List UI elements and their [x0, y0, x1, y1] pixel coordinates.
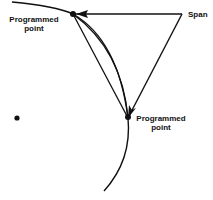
label-line-2: point [133, 123, 189, 132]
programmed-point-top-marker [70, 11, 76, 17]
label-line-2: point [6, 24, 62, 33]
programmed-point-bottom-label: Programmed point [133, 114, 189, 132]
chord-line [73, 14, 128, 118]
span-text: Span [188, 10, 208, 19]
center-dot [14, 115, 19, 120]
programmed-point-top-label: Programmed point [6, 15, 62, 33]
programmed-point-bottom-marker [125, 114, 131, 120]
label-line-1: Programmed [133, 114, 189, 123]
label-line-1: Programmed [6, 15, 62, 24]
span-line-diagonal [129, 14, 182, 116]
span-label: Span [188, 10, 208, 19]
